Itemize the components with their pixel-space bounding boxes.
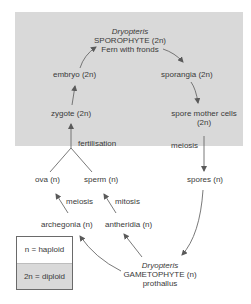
gametophyte-desc: prothallus — [120, 279, 200, 288]
process-fertilisation: fertilisation — [78, 139, 116, 148]
process-meiosis-spores: meiosis — [171, 141, 198, 150]
sporophyte-node: Dryopteris SPOROPHYTE (2n) Fern with fro… — [90, 27, 170, 54]
sporophyte-title: SPOROPHYTE (2n) — [90, 36, 170, 45]
node-archegonia: archegonia (n) — [41, 220, 93, 229]
node-zygote: zygote (2n) — [51, 109, 91, 118]
legend-haploid: n = haploid — [17, 237, 72, 263]
line-sperm-fertilisation — [71, 148, 92, 172]
arrow-gametophyte-to-archegonia — [80, 236, 121, 271]
arrow-spores-to-gametophyte — [182, 190, 203, 255]
legend: n = haploid 2n = diploid — [16, 236, 73, 290]
process-meiosis-ova: meiosis — [66, 197, 93, 206]
legend-diploid: 2n = diploid — [17, 263, 72, 289]
arrow-sporangia-to-smc — [191, 82, 198, 103]
node-antheridia: antheridia (n) — [105, 220, 152, 229]
node-sperm: sperm (n) — [84, 175, 118, 184]
node-sporangia: sporangia (2n) — [161, 70, 213, 79]
line-ova-fertilisation — [50, 148, 71, 172]
gametophyte-genus: Dryopteris — [120, 261, 200, 270]
arrow-gametophyte-to-antheridia — [124, 234, 142, 257]
sporophyte-genus: Dryopteris — [90, 27, 170, 36]
arrow-zygote-to-embryo — [72, 86, 75, 105]
process-mitosis-sperm: mitosis — [115, 197, 140, 206]
gametophyte-node: Dryopteris GAMETOPHYTE (n) prothallus — [120, 261, 200, 288]
node-spore-mother-cells: spore mother cells (2n) — [166, 109, 242, 127]
node-embryo: embryo (2n) — [53, 70, 96, 79]
node-ova: ova (n) — [35, 175, 60, 184]
node-spores: spores (n) — [187, 175, 223, 184]
sporophyte-desc: Fern with fronds — [90, 45, 170, 54]
gametophyte-title: GAMETOPHYTE (n) — [120, 270, 200, 279]
